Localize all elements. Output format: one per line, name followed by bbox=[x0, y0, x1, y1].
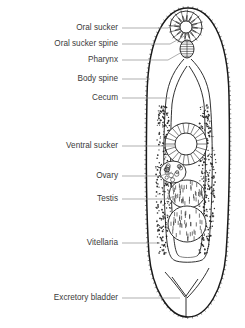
label-body-spine: Body spine bbox=[77, 74, 118, 83]
testis-posterior bbox=[168, 206, 206, 242]
label-testis: Testis bbox=[97, 194, 118, 203]
label-cecum: Cecum bbox=[92, 93, 118, 102]
trematode-anatomy-figure: Oral suckerOral sucker spinePharynxBody … bbox=[0, 0, 245, 328]
ventral-sucker bbox=[165, 123, 207, 165]
label-ventral-sucker: Ventral sucker bbox=[66, 141, 118, 150]
testis-anterior bbox=[169, 180, 205, 208]
label-vitellaria: Vitellaria bbox=[87, 238, 119, 247]
label-oral-sucker: Oral sucker bbox=[76, 23, 118, 32]
ovary bbox=[160, 161, 186, 183]
pharynx bbox=[180, 40, 194, 58]
label-oral-sucker-spine: Oral sucker spine bbox=[54, 39, 118, 48]
label-ovary: Ovary bbox=[96, 171, 119, 180]
label-pharynx: Pharynx bbox=[88, 55, 118, 64]
labels-layer: Oral suckerOral sucker spinePharynxBody … bbox=[54, 23, 119, 302]
anatomy-diagram-canvas: Oral suckerOral sucker spinePharynxBody … bbox=[0, 0, 245, 328]
label-excretory-bladder: Excretory bladder bbox=[54, 293, 118, 302]
